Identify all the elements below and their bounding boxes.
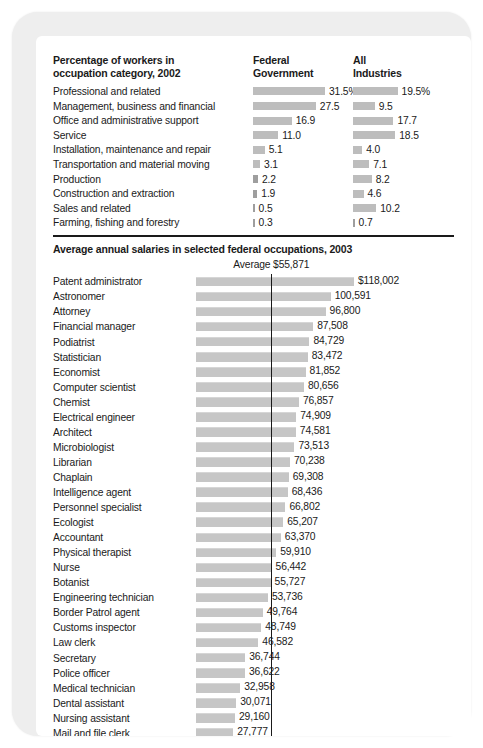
occupation-row-label: Service (53, 130, 253, 141)
salary-bar (196, 533, 281, 543)
salary-bar-track: 53,736 (196, 590, 454, 605)
average-caption: Average $55,871 (53, 259, 454, 273)
salary-bar (196, 698, 236, 708)
salary-occupation-label: Architect (53, 427, 196, 438)
salary-bar (196, 548, 276, 558)
salary-occupation-label: Botanist (53, 577, 196, 588)
salary-row: Mail and file clerk27,777 (53, 726, 454, 736)
salary-value-label: 36,744 (249, 651, 280, 662)
salary-bar-track: 46,582 (196, 635, 454, 650)
salary-occupation-label: Patent administrator (53, 276, 196, 287)
salary-bar-track: 55,727 (196, 575, 454, 590)
salary-bar-track: 59,910 (196, 545, 454, 560)
salary-bar (196, 668, 245, 678)
salary-value-label: 80,656 (308, 380, 339, 391)
salary-row: Chaplain69,308 (53, 470, 454, 485)
occupation-federal-cell: 0.3 (253, 217, 353, 228)
all-industries-value: 4.0 (366, 144, 380, 155)
salary-value-label: 59,910 (280, 546, 311, 557)
salary-occupation-label: Attorney (53, 306, 196, 317)
salary-value-label: 55,727 (275, 576, 306, 587)
all-header-line1: All (353, 54, 453, 67)
salary-occupation-label: Economist (53, 367, 196, 378)
salary-value-label: 81,852 (310, 365, 341, 376)
salary-occupation-label: Accountant (53, 532, 196, 543)
salary-occupation-label: Border Patrol agent (53, 607, 196, 618)
salary-bar-track: 70,238 (196, 455, 454, 470)
federal-value: 0.5 (259, 203, 273, 214)
salary-row: Microbiologist73,513 (53, 440, 454, 455)
all-industries-value: 18.5 (399, 130, 418, 141)
salary-row: Computer scientist80,656 (53, 380, 454, 395)
salary-row: Statistician83,472 (53, 350, 454, 365)
salary-occupation-label: Engineering technician (53, 592, 196, 603)
salary-occupation-label: Customs inspector (53, 622, 196, 633)
salary-value-label: 76,857 (303, 395, 334, 406)
federal-bar (253, 190, 257, 198)
all-industries-bar (353, 190, 364, 198)
federal-value: 2.2 (262, 174, 276, 185)
salary-bar (196, 578, 271, 588)
salary-bar (196, 277, 354, 287)
salary-row: Medical technician32,958 (53, 681, 454, 696)
salary-value-label: 30,071 (240, 696, 271, 707)
all-industries-value: 8.2 (376, 174, 390, 185)
federal-header-line1: Federal (253, 54, 353, 67)
salary-value-label: 63,370 (285, 531, 316, 542)
all-industries-value: 9.5 (379, 101, 393, 112)
all-industries-value: 7.1 (373, 159, 387, 170)
salary-bar (196, 608, 263, 618)
occupation-all-cell: 10.2 (353, 203, 453, 214)
salary-value-label: 74,909 (300, 410, 331, 421)
salary-row: Dental assistant30,071 (53, 696, 454, 711)
salary-bar-track: 63,370 (196, 530, 454, 545)
occupation-federal-cell: 31.5% (253, 86, 353, 97)
occupation-federal-cell: 2.2 (253, 174, 353, 185)
salary-bar-track: 83,472 (196, 350, 454, 365)
occupation-row: Service11.018.5 (53, 128, 454, 143)
salary-occupation-label: Dental assistant (53, 698, 196, 709)
salary-occupation-label: Police officer (53, 668, 196, 679)
salary-rows-container: Patent administrator$118,002Astronomer10… (53, 274, 454, 736)
salary-section-title: Average annual salaries in selected fede… (53, 243, 454, 256)
salary-value-label: 70,238 (294, 455, 325, 466)
salary-bar (196, 593, 268, 603)
salary-bar (196, 713, 235, 723)
salary-bar-track: 65,207 (196, 515, 454, 530)
salary-bar (196, 307, 326, 317)
page-root: Percentage of workers in occupation cate… (0, 0, 483, 748)
occupation-federal-cell: 11.0 (253, 130, 353, 141)
federal-bar (253, 175, 258, 183)
all-industries-value: 19.5% (402, 86, 430, 97)
salary-row: Astronomer100,591 (53, 289, 454, 304)
salary-bar-track: 96,800 (196, 304, 454, 319)
occupation-all-cell: 4.6 (353, 188, 453, 199)
salary-row: Physical therapist59,910 (53, 545, 454, 560)
salary-occupation-label: Astronomer (53, 291, 196, 302)
salary-value-label: 68,436 (292, 486, 323, 497)
salary-bar (196, 638, 258, 648)
occupation-all-cell: 8.2 (353, 174, 453, 185)
salary-row: Nursing assistant29,160 (53, 711, 454, 726)
salary-row: Secretary36,744 (53, 650, 454, 665)
salary-row: Ecologist65,207 (53, 515, 454, 530)
salary-value-label: 66,802 (289, 501, 320, 512)
occupation-row-label: Construction and extraction (53, 188, 253, 199)
salary-occupation-label: Ecologist (53, 517, 196, 528)
salary-bar (196, 427, 296, 437)
salary-occupation-label: Law clerk (53, 637, 196, 648)
salary-row: Attorney96,800 (53, 304, 454, 319)
salary-occupation-label: Financial manager (53, 321, 196, 332)
salary-bar-track: 56,442 (196, 560, 454, 575)
salary-row: Personnel specialist66,802 (53, 500, 454, 515)
all-industries-value: 10.2 (380, 203, 399, 214)
salary-occupation-label: Personnel specialist (53, 502, 196, 513)
section-divider-rule (53, 235, 454, 237)
salary-value-label: 36,622 (249, 666, 280, 677)
all-industries-bar (353, 175, 372, 183)
average-caption-text: Average $55,871 (233, 259, 309, 270)
column-header-all-industries: All Industries (353, 54, 453, 79)
salary-row: Podiatrist84,729 (53, 335, 454, 350)
salary-row: Police officer36,622 (53, 666, 454, 681)
salary-occupation-label: Chemist (53, 397, 196, 408)
